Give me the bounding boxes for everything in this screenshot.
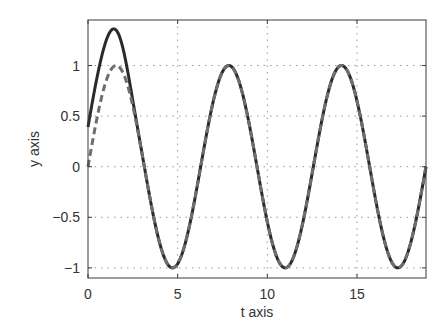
solid-curve — [88, 29, 426, 268]
x-tick-label: 15 — [349, 286, 365, 302]
y-tick-label: 1 — [72, 58, 80, 74]
axes-box — [88, 20, 426, 278]
grid-lines — [88, 20, 426, 278]
x-tick-label: 5 — [174, 286, 182, 302]
x-tick-label: 0 — [84, 286, 92, 302]
plot-curves — [88, 29, 426, 268]
line-chart: 051015 10.50−0.5−1 t axis y axis — [0, 0, 445, 336]
y-tick-label: −1 — [64, 260, 80, 276]
y-axis-label: y axis — [26, 131, 42, 167]
x-tick-label: 10 — [260, 286, 276, 302]
x-axis-label: t axis — [241, 304, 274, 320]
y-tick-label: 0.5 — [61, 108, 81, 124]
y-tick-label: −0.5 — [52, 209, 80, 225]
y-tick-label: 0 — [72, 159, 80, 175]
